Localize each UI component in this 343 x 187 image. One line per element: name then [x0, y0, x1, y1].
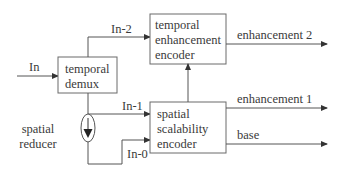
spatial-reducer-label-line1: spatial: [22, 122, 55, 136]
spatial-scalability-encoder-label-line3: encoder: [157, 137, 197, 151]
block-diagram: In temporal demux In-2 temporal enhancem…: [0, 0, 343, 187]
temporal-enhancement-encoder-label-line2: enhancement: [155, 33, 221, 47]
temporal-demux-label-line2: demux: [65, 77, 100, 91]
in-1-label: In-1: [122, 99, 143, 113]
input-label: In: [29, 60, 40, 74]
in-2-label: In-2: [111, 22, 132, 36]
in-2-connector: [88, 37, 150, 57]
enhancement-2-label: enhancement 2: [237, 28, 312, 42]
temporal-demux-label-line1: temporal: [65, 62, 110, 76]
spatial-reducer-label-line2: reducer: [19, 137, 57, 151]
temporal-enhancement-encoder-label-line1: temporal: [155, 18, 200, 32]
in-0-label: In-0: [127, 147, 148, 161]
spatial-scalability-encoder-label-line1: spatial: [157, 107, 190, 121]
spatial-scalability-encoder-label-line2: scalability: [157, 122, 209, 136]
temporal-enhancement-encoder-label-line3: encoder: [155, 48, 195, 62]
base-label: base: [237, 128, 260, 142]
enhancement-1-label: enhancement 1: [237, 92, 312, 106]
